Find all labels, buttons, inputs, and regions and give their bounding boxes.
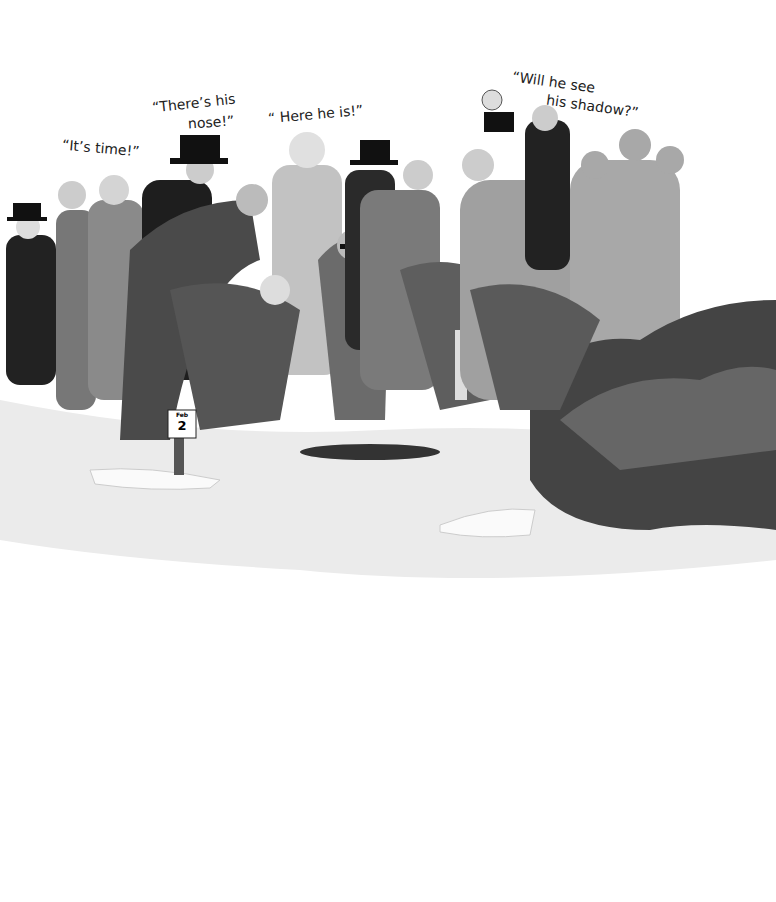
crowd-scene [0, 0, 776, 902]
sign-number: 2 [170, 418, 194, 433]
groundhog-hole [300, 444, 440, 460]
quote-theres-his-2: nose!” [187, 112, 234, 132]
illustration: “It’s time!” “There’s his nose!” “ Here … [0, 0, 776, 902]
sign-label: Feb [170, 411, 194, 418]
person-left-tophat [6, 203, 56, 385]
person-kneeling-fur [170, 275, 300, 430]
